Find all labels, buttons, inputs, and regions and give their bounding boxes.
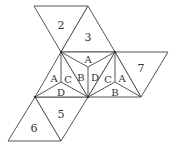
face-label-5: 5	[58, 108, 65, 121]
region-label-A: A	[117, 73, 126, 84]
vertex-dot	[34, 96, 36, 98]
region-label-A: A	[49, 73, 58, 84]
region-label-B: B	[77, 72, 84, 83]
region-label-C: C	[64, 74, 72, 85]
face-label-6: 6	[31, 122, 38, 135]
region-label-C: C	[104, 74, 112, 85]
vertex-dot	[114, 51, 116, 53]
region-label-B: B	[111, 87, 118, 98]
face-label-2: 2	[58, 19, 65, 32]
face-label-3: 3	[85, 31, 92, 44]
vertex-dot	[87, 96, 89, 98]
region-label-A: A	[83, 54, 92, 65]
polyhedron-net-diagram: 23756AACBDCADB	[0, 0, 177, 154]
face-label-7: 7	[138, 62, 145, 75]
region-label-D: D	[57, 87, 65, 98]
vertex-dot	[60, 51, 62, 53]
region-label-D: D	[91, 72, 99, 83]
